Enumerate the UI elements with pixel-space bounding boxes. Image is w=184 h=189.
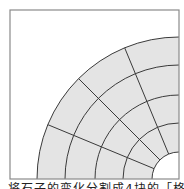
- quarter-annulus-mesh-diagram: [0, 0, 184, 180]
- figure-caption: 将石子的变化分割成4块的「格子: [8, 182, 184, 189]
